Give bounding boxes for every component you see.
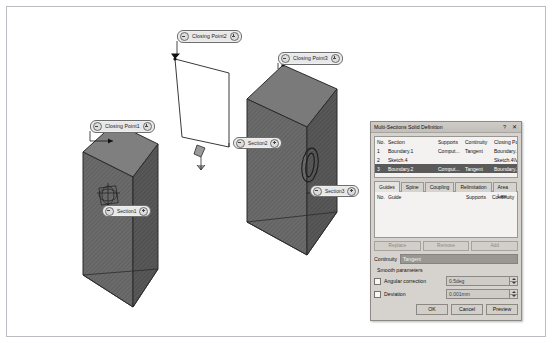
cell-section: Sketch.4 <box>388 157 438 163</box>
callout-label: Section1 <box>114 206 139 217</box>
tab-relimitation[interactable]: Relimitation <box>455 182 491 192</box>
section-table[interactable]: No. Section Supports Continuity Closing … <box>374 136 518 178</box>
cell-closing-point: Boundary.2\... <box>494 166 518 172</box>
stepper-arrows-icon[interactable] <box>509 277 517 285</box>
col-closing-point: Closing Point <box>494 139 518 145</box>
guide-table[interactable]: No. Guide Supports Continuity <box>374 191 518 238</box>
callout-closing-point-3[interactable]: Closing Point3 <box>278 52 343 65</box>
collapse-icon[interactable] <box>139 207 148 216</box>
callout-section-3[interactable]: Section3 <box>310 185 359 197</box>
cell-no: 1 <box>377 148 388 154</box>
cell-supports: Comput... <box>438 166 465 172</box>
axis-glyph-middle <box>194 145 205 170</box>
angular-correction-value[interactable]: 0.5deg <box>447 277 509 285</box>
callout-label: Closing Point3 <box>290 53 331 64</box>
callout-closing-point-1[interactable]: Closing Point1 <box>90 120 155 133</box>
help-icon[interactable]: ? <box>500 123 509 131</box>
screenshot-root: Closing Point1 Closing Point2 Closing Po… <box>0 0 552 343</box>
tab-guides[interactable]: Guides <box>374 181 400 192</box>
expand-icon[interactable] <box>313 187 322 196</box>
expand-icon[interactable] <box>105 207 114 216</box>
collapse-icon[interactable] <box>347 187 356 196</box>
add-button[interactable]: Add <box>471 241 518 251</box>
callout-section-2[interactable]: Section2 <box>233 137 282 149</box>
col-continuity: Continuity <box>465 139 494 145</box>
angular-correction-row: Angular correction 0.5deg <box>374 276 518 286</box>
cell-closing-point: Sketch.4\Vert... <box>494 157 518 163</box>
deviation-row: Deviation 0.001mm <box>374 289 518 299</box>
deviation-stepper[interactable]: 0.001mm <box>446 289 518 299</box>
callout-label: Closing Point2 <box>189 31 230 42</box>
dialog-footer: OK Cancel Preview <box>374 304 518 315</box>
table-row[interactable]: 3 Boundary.2 Comput... Tangent Boundary.… <box>375 164 517 173</box>
cancel-button[interactable]: Cancel <box>451 304 483 315</box>
cell-no: 2 <box>377 157 388 163</box>
callout-label: Section3 <box>322 186 347 197</box>
stepper-arrows-icon[interactable] <box>509 290 517 298</box>
cell-supports: Comput... <box>438 148 465 154</box>
callout-section-1[interactable]: Section1 <box>102 205 151 217</box>
cell-no: 3 <box>377 166 388 172</box>
vertex-marker-middle <box>173 57 176 60</box>
replace-button[interactable]: Replace <box>374 241 421 251</box>
angular-correction-label: Angular correction <box>384 278 446 284</box>
cell-continuity: Tangent <box>465 148 494 154</box>
preview-button[interactable]: Preview <box>486 304 518 315</box>
guide-action-buttons: Replace Remove Add <box>374 241 518 251</box>
section-table-header: No. Section Supports Continuity Closing … <box>375 137 517 146</box>
col-continuity: Continuity <box>492 194 515 200</box>
callout-label: Section2 <box>245 138 270 149</box>
continuity-row: Continuity Tangent <box>374 254 518 264</box>
tab-spine[interactable]: Spine <box>401 182 424 192</box>
callout-closing-point-2[interactable]: Closing Point2 <box>177 30 242 43</box>
dialog-titlebar[interactable]: Multi-Sections Solid Definition ? ✕ <box>371 122 521 133</box>
angular-correction-checkbox[interactable] <box>374 278 381 285</box>
deviation-value[interactable]: 0.001mm <box>447 290 509 298</box>
collapse-icon[interactable] <box>143 122 152 131</box>
continuity-select[interactable]: Tangent <box>400 254 518 264</box>
expand-icon[interactable] <box>93 122 102 131</box>
cell-section: Boundary.2 <box>388 166 438 172</box>
col-section: Section <box>388 139 438 145</box>
tab-area-law[interactable]: Area Law <box>493 182 517 192</box>
multi-sections-solid-dialog[interactable]: Multi-Sections Solid Definition ? ✕ No. … <box>370 121 522 321</box>
expand-icon[interactable] <box>236 139 245 148</box>
callout-label: Closing Point1 <box>102 121 143 132</box>
table-row[interactable]: 1 Boundary.1 Comput... Tangent Boundary.… <box>375 146 517 155</box>
collapse-icon[interactable] <box>331 54 340 63</box>
expand-icon[interactable] <box>281 54 290 63</box>
ok-button[interactable]: OK <box>416 304 448 315</box>
close-icon[interactable]: ✕ <box>510 123 519 131</box>
guide-table-header: No. Guide Supports Continuity <box>375 192 517 201</box>
smooth-parameters-label: Smooth parameters <box>374 267 518 273</box>
col-supports: Supports <box>438 139 465 145</box>
solid-right <box>247 65 337 255</box>
col-supports: Supports <box>466 194 492 200</box>
guide-table-body[interactable] <box>375 201 517 209</box>
dialog-title: Multi-Sections Solid Definition <box>373 124 499 130</box>
angular-correction-stepper[interactable]: 0.5deg <box>446 276 518 286</box>
table-row[interactable]: 2 Sketch.4 Sketch.4\Vert... <box>375 155 517 164</box>
remove-button[interactable]: Remove <box>423 241 470 251</box>
tab-coupling[interactable]: Coupling <box>425 182 455 192</box>
cell-closing-point: Boundary.1\... <box>494 148 518 154</box>
col-guide: Guide <box>388 194 466 200</box>
sketch-plane-middle <box>175 59 229 147</box>
continuity-label: Continuity <box>374 256 397 262</box>
col-no: No. <box>377 194 388 200</box>
expand-icon[interactable] <box>180 32 189 41</box>
cell-section: Boundary.1 <box>388 148 438 154</box>
dialog-tabs[interactable]: Guides Spine Coupling Relimitation Area … <box>374 182 518 192</box>
deviation-label: Deviation <box>384 291 446 297</box>
cell-continuity: Tangent <box>465 166 494 172</box>
collapse-icon[interactable] <box>270 139 279 148</box>
col-no: No. <box>377 139 388 145</box>
dialog-body: No. Section Supports Continuity Closing … <box>371 133 521 318</box>
deviation-checkbox[interactable] <box>374 291 381 298</box>
collapse-icon[interactable] <box>230 32 239 41</box>
